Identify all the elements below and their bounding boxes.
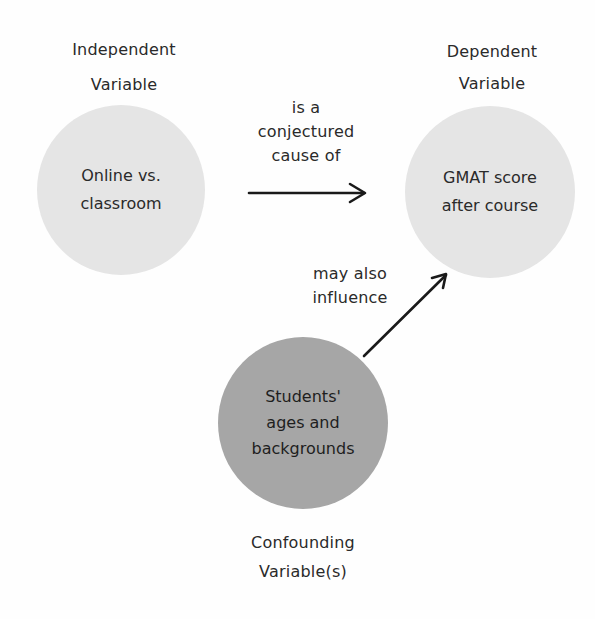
causal-arrow-icon <box>249 184 365 202</box>
influence-edge-label: may also influence <box>295 262 405 310</box>
independent-node-line-2: classroom <box>80 193 161 215</box>
causal-edge-label-line-3: cause of <box>236 144 376 168</box>
confounding-heading-line-2: Variable(s) <box>223 562 383 582</box>
independent-variable-node: Online vs. classroom <box>37 105 205 275</box>
causal-edge-label: is a conjectured cause of <box>236 96 376 168</box>
independent-heading-line-1: Independent <box>44 40 204 60</box>
confounding-node-line-2: ages and <box>252 412 355 434</box>
dependent-heading-line-1: Dependent <box>412 42 572 62</box>
dependent-heading-line-2: Variable <box>412 74 572 94</box>
influence-edge-label-line-2: influence <box>295 286 405 310</box>
confounding-variable-node: Students' ages and backgrounds <box>218 337 388 509</box>
influence-edge-label-line-1: may also <box>295 262 405 286</box>
confounding-variable-heading: Confounding Variable(s) <box>223 533 383 582</box>
independent-variable-heading: Independent Variable <box>44 40 204 95</box>
independent-heading-line-2: Variable <box>44 75 204 95</box>
confounding-node-line-1: Students' <box>252 386 355 408</box>
dependent-variable-node: GMAT score after course <box>405 106 575 278</box>
dependent-node-line-2: after course <box>442 195 538 217</box>
independent-node-line-1: Online vs. <box>80 165 161 187</box>
causal-edge-label-line-2: conjectured <box>236 120 376 144</box>
confounding-heading-line-1: Confounding <box>223 533 383 553</box>
confounding-node-line-3: backgrounds <box>252 438 355 460</box>
causal-edge-label-line-1: is a <box>236 96 376 120</box>
causal-diagram: Independent Variable Dependent Variable … <box>0 0 595 619</box>
dependent-node-line-1: GMAT score <box>442 167 538 189</box>
dependent-variable-heading: Dependent Variable <box>412 42 572 94</box>
